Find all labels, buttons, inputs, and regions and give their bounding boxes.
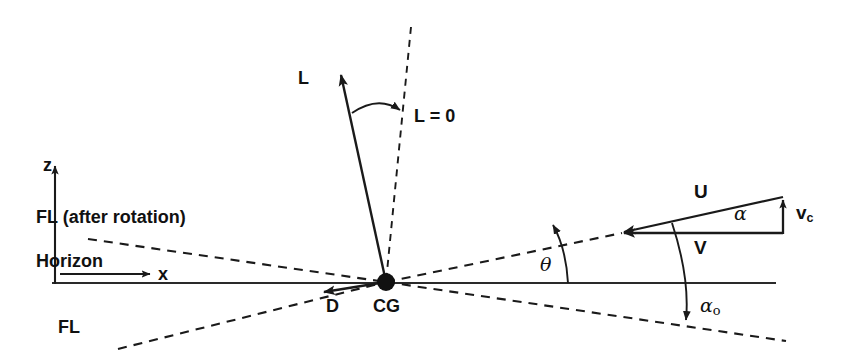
fl-after-rotation-left-segment xyxy=(88,239,386,282)
zero-lift-reference-line xyxy=(386,27,411,282)
forward-velocity-label: V xyxy=(694,238,707,257)
horizon-label: Horizon xyxy=(36,252,103,270)
drag-label: D xyxy=(326,297,339,315)
cg-label: CG xyxy=(373,297,400,315)
theta-label: θ xyxy=(540,255,551,274)
fl-after-rotation-label: FL (after rotation) xyxy=(36,208,186,226)
center-of-gravity-point xyxy=(377,273,395,291)
x-axis-label: x xyxy=(158,265,168,283)
z-axis-label: z xyxy=(43,156,52,174)
alpha-o-label: αo xyxy=(700,296,721,318)
lift-angle-arc xyxy=(352,103,400,113)
fl-label: FL xyxy=(58,318,80,336)
fl-after-rotation-right-segment xyxy=(386,233,622,282)
resultant-velocity-vector-u xyxy=(624,197,783,232)
lift-label: L xyxy=(298,69,309,87)
zero-lift-label: L = 0 xyxy=(414,107,455,125)
fl-line-left-segment xyxy=(118,282,386,349)
theta-angle-arc xyxy=(553,225,568,283)
alpha-label: α xyxy=(734,204,747,223)
alpha-o-angle-arc xyxy=(672,223,687,320)
resultant-velocity-label: U xyxy=(694,182,708,201)
climb-velocity-label: vc xyxy=(796,203,814,225)
fl-line-right-segment xyxy=(386,282,786,341)
force-diagram: L L = 0 D CG z x Horizon FL (after rotat… xyxy=(0,0,848,363)
